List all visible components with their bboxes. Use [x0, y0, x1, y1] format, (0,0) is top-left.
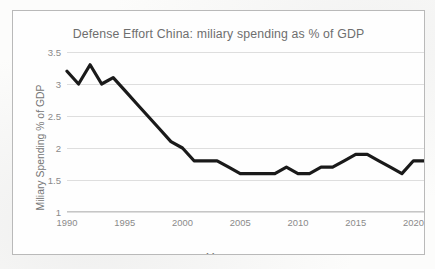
data-series-line — [67, 52, 425, 212]
x-tick-label: 2005 — [230, 217, 251, 228]
y-tick-label: 1 — [56, 207, 61, 218]
y-axis-title-text: Miliary Spending % of GDP — [36, 84, 47, 210]
x-tick-label: 2020 — [403, 217, 424, 228]
chart-title: Defense Effort China: miliary spending a… — [13, 27, 424, 41]
y-tick-label: 2.5 — [48, 111, 61, 122]
y-tick-label: 3 — [56, 79, 61, 90]
x-tick-label: 1995 — [114, 217, 135, 228]
series-polyline — [67, 65, 425, 174]
y-tick-label: 2 — [56, 143, 61, 154]
gridline — [67, 212, 425, 213]
y-tick-label: 1.5 — [48, 175, 61, 186]
x-axis-title: Year — [13, 251, 424, 255]
plot-right-edge — [424, 52, 425, 212]
chart-frame: Defense Effort China: miliary spending a… — [12, 10, 425, 255]
x-tick-label: 1990 — [57, 217, 78, 228]
x-tick-label: 2000 — [172, 217, 193, 228]
y-tick-label: 3.5 — [48, 47, 61, 58]
x-tick-label: 2015 — [345, 217, 366, 228]
y-axis-title: Miliary Spending % of GDP — [33, 63, 49, 231]
x-tick-label: 2010 — [288, 217, 309, 228]
plot-area: 11.522.533.5 199019952000200520102015202… — [67, 52, 425, 212]
